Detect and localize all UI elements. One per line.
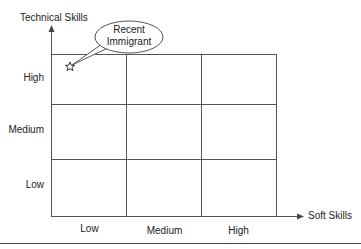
callout-line-1: Recent	[96, 24, 162, 36]
x-axis-title: Soft Skills	[308, 210, 352, 221]
callout-line-2: Immigrant	[96, 36, 162, 48]
x-level-medium: Medium	[127, 225, 202, 236]
x-level-high: High	[201, 225, 276, 236]
grid	[51, 54, 277, 216]
y-level-medium: Medium	[0, 124, 44, 135]
matrix-diagram	[0, 0, 361, 249]
callout-label: Recent Immigrant	[96, 24, 162, 48]
y-axis-title: Technical Skills	[20, 12, 88, 23]
y-level-high: High	[0, 72, 44, 83]
y-axis-arrow-icon	[49, 25, 55, 32]
star-icon	[65, 62, 74, 71]
x-axis-arrow-icon	[297, 214, 304, 220]
x-level-low: Low	[52, 223, 127, 234]
y-level-low: Low	[0, 179, 44, 190]
